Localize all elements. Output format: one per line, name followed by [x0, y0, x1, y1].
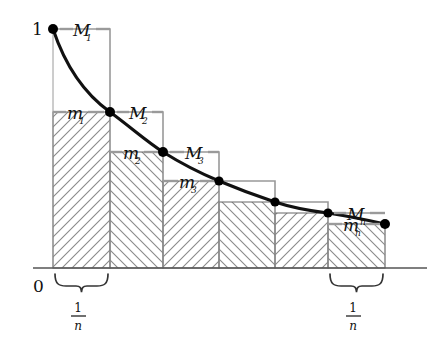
curve-point-6 [380, 219, 390, 229]
curve-point-5 [323, 208, 332, 217]
label-m1-sub: 1 [79, 116, 85, 126]
origin-label: 0 [33, 276, 44, 296]
brace-last-denominator: n [349, 319, 357, 333]
curve-point-3 [214, 176, 223, 185]
label-Mn-sub: n [360, 217, 366, 227]
brace-first-numerator: 1 [74, 301, 82, 315]
brace-last-label: 1 n [346, 301, 361, 333]
curve-point-0 [48, 24, 58, 34]
brace-first-denominator: n [74, 319, 82, 333]
lower-rect-5 [275, 213, 328, 268]
brace-last-numerator: 1 [349, 301, 357, 315]
curve-point-4 [270, 197, 279, 206]
label-m2-sub: 2 [134, 156, 141, 166]
brace-last-interval [330, 274, 383, 292]
label-M3-sub: 3 [198, 156, 204, 166]
lower-rect-2 [110, 152, 163, 268]
lower-rect-4 [219, 202, 275, 268]
brace-first-interval [55, 274, 108, 292]
label-mn-sub: n [355, 228, 361, 238]
curve-point-2 [158, 147, 168, 157]
label-m3-sub: 3 [191, 185, 197, 195]
lower-rect-1 [53, 112, 110, 268]
y-axis-top-label: 1 [32, 19, 43, 39]
label-M2-sub: 2 [141, 116, 148, 126]
curve-point-1 [105, 107, 115, 117]
brace-first-label: 1 n [71, 301, 86, 333]
riemann-sum-figure: 1 0 M 1 M 2 M 3 M n m 1 m 2 m 3 m n 1 n … [0, 0, 441, 343]
label-M1-sub: 1 [86, 33, 92, 43]
